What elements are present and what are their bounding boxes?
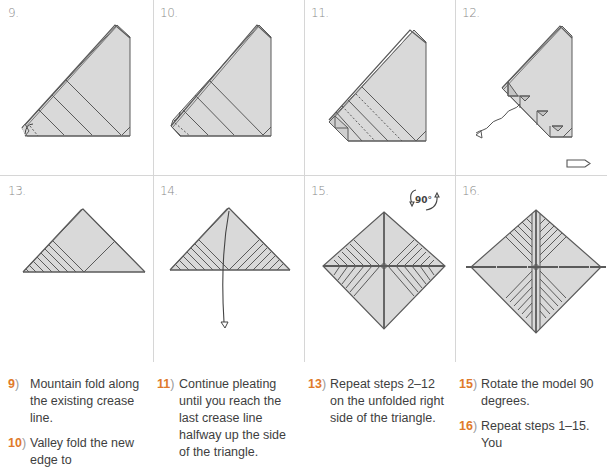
step-text: Rotate the model 90 degrees. (481, 377, 594, 408)
step-text: Continue pleating until you reach the la… (179, 377, 286, 459)
instruction-step-11: 11) Continue pleating until you reach th… (157, 376, 299, 461)
step-text: Repeat steps 2–12 on the unfolded right … (330, 377, 444, 425)
diagram-drawings: 90° (0, 0, 607, 362)
instructions-col-4: 15) Rotate the model 90 degrees. 16) Rep… (459, 376, 599, 460)
step-number: 16) (459, 418, 477, 435)
diagram-step-13 (23, 209, 145, 272)
step-text: Repeat steps 1–15. You (481, 419, 589, 450)
diagram-step-10 (171, 25, 271, 136)
step-text: Valley fold the new edge to (30, 436, 134, 467)
instructions-col-1: 9) Mountain fold along the existing crea… (8, 376, 148, 471)
step-number: 15) (459, 376, 477, 393)
step-text: Mountain fold along the existing crease … (30, 377, 139, 425)
step-number: 9) (8, 376, 19, 393)
diagram-step-11 (329, 30, 426, 141)
step-number: 13) (308, 376, 326, 393)
step-number: 10) (8, 435, 26, 452)
diagram-step-9 (22, 25, 130, 136)
instruction-step-15: 15) Rotate the model 90 degrees. (459, 376, 599, 410)
diagram-step-15 (323, 212, 445, 329)
rotate-90-label: 90° (415, 195, 432, 205)
instruction-step-16: 16) Repeat steps 1–15. You (459, 418, 599, 452)
instruction-step-13: 13) Repeat steps 2–12 on the unfolded ri… (308, 376, 448, 427)
diagram-step-16 (466, 210, 606, 333)
step-number: 11) (157, 376, 174, 393)
diagram-grid: 9. 10. 11. 12. 13. 14. 15. 16. (0, 0, 607, 362)
instruction-step-9: 9) Mountain fold along the existing crea… (8, 376, 148, 427)
instructions-col-3: 13) Repeat steps 2–12 on the unfolded ri… (308, 376, 448, 435)
instructions-col-2: 11) Continue pleating until you reach th… (157, 376, 299, 469)
diagram-step-14 (170, 208, 290, 328)
diagram-step-12 (476, 26, 590, 167)
instruction-step-10: 10) Valley fold the new edge to (8, 435, 148, 469)
